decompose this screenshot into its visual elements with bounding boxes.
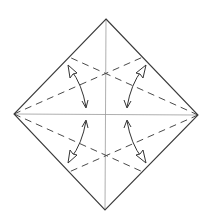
origami-diagram [0, 0, 211, 216]
valley-fold-left-to-lower-right [14, 114, 143, 172]
valley-fold-left-to-upper-right [14, 57, 143, 114]
valley-fold-right-to-upper-left [69, 57, 198, 115]
horizontal-center-crease [14, 114, 198, 115]
fold-arrow-upper-left [68, 65, 88, 108]
fold-arrow-upper-right [124, 65, 146, 108]
fold-arrow-lower-left [68, 120, 88, 163]
diagram-svg [0, 0, 211, 216]
fold-arrow-lower-right [124, 120, 146, 163]
